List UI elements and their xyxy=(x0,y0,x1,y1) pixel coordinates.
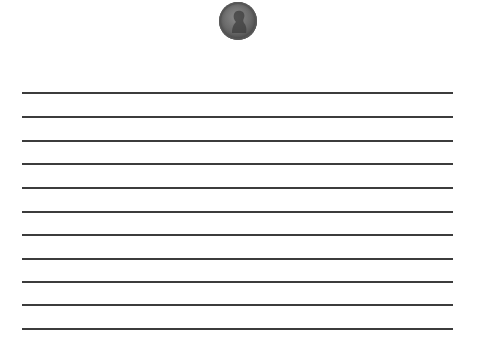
ruled-line xyxy=(22,258,453,260)
ruled-lines xyxy=(0,0,478,339)
ruled-line xyxy=(22,187,453,189)
ruled-line xyxy=(22,140,453,142)
ruled-line xyxy=(22,92,453,94)
ruled-line xyxy=(22,328,453,330)
ruled-line xyxy=(22,163,453,165)
ruled-line xyxy=(22,234,453,236)
ruled-line xyxy=(22,116,453,118)
ruled-line xyxy=(22,211,453,213)
ruled-line xyxy=(22,281,453,283)
ruled-line xyxy=(22,304,453,306)
